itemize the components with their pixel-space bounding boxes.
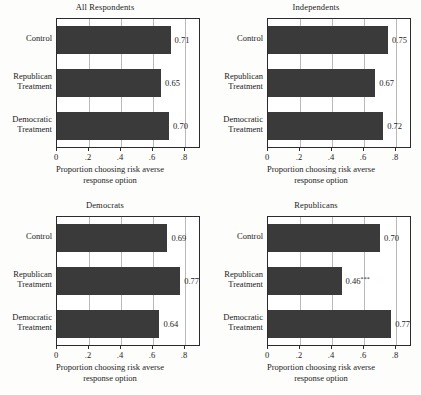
bar [268, 310, 391, 338]
panel-title: Democrats [0, 200, 210, 210]
axis-tick [120, 148, 121, 151]
category-label-line2: Treatment [211, 323, 263, 333]
axis-tick [88, 346, 89, 349]
chart-panel: All RespondentsControlRepublicanTreatmen… [0, 0, 210, 197]
x-axis-title-line2: response option [231, 373, 411, 384]
axis-tick-label: .4 [117, 350, 123, 360]
bar-row: 0.70 [57, 112, 201, 140]
x-axis: 0.2.4.6.8 [56, 148, 200, 152]
bar-value-label: 0.65 [161, 78, 180, 88]
category-label-line2: Treatment [0, 125, 52, 135]
x-axis-title-line1: Proportion choosing risk averse [20, 362, 200, 373]
bar-row: 0.70 [268, 224, 412, 252]
category-axis-labels: ControlRepublicanTreatmentDemocraticTrea… [0, 216, 52, 346]
axis-tick-label: .6 [149, 350, 155, 360]
plot-area: 0.700.46***0.77 [267, 216, 411, 346]
axis-tick-label: .2 [85, 152, 91, 162]
axis-tick-label: .4 [328, 350, 334, 360]
axis-tick-label: .8 [181, 152, 187, 162]
bar-value-label: 0.69 [167, 233, 186, 243]
bar-row: 0.46*** [268, 267, 412, 295]
bar-value-number: 0.71 [175, 35, 190, 45]
bar [268, 69, 375, 97]
axis-tick [299, 148, 300, 151]
category-label: DemocraticTreatment [211, 115, 263, 134]
bar-row: 0.67 [268, 69, 412, 97]
bar-value-number: 0.46 [346, 276, 361, 286]
bar [57, 26, 171, 54]
axis-tick-label: 0 [54, 350, 58, 360]
bar [268, 26, 388, 54]
bar-row: 0.72 [268, 112, 412, 140]
bar-value-label: 0.70 [169, 121, 188, 131]
axis-tick-label: .6 [149, 152, 155, 162]
x-axis-title-line1: Proportion choosing risk averse [20, 164, 200, 175]
x-axis-title-line1: Proportion choosing risk averse [231, 164, 411, 175]
axis-tick-label: .8 [392, 350, 398, 360]
axis-tick [395, 346, 396, 349]
chart-panel: IndependentsControlRepublicanTreatmentDe… [211, 0, 421, 197]
bar-value-label: 0.77 [180, 276, 199, 286]
bar [57, 267, 180, 295]
axis-tick-label: .2 [85, 350, 91, 360]
bar-value-number: 0.75 [392, 35, 407, 45]
category-label-line1: Control [0, 232, 52, 242]
category-label: RepublicanTreatment [211, 72, 263, 91]
bar [57, 310, 159, 338]
panel-title: Republicans [211, 200, 421, 210]
bar-value-number: 0.77 [395, 319, 410, 329]
category-label: DemocraticTreatment [211, 313, 263, 332]
panel-title: All Respondents [0, 2, 210, 12]
bar-row: 0.69 [57, 224, 201, 252]
category-label-line1: Control [0, 34, 52, 44]
x-axis: 0.2.4.6.8 [56, 346, 200, 350]
bar-value-number: 0.69 [171, 233, 186, 243]
axis-tick [331, 346, 332, 349]
plot-area: 0.750.670.72 [267, 18, 411, 148]
bar [268, 112, 383, 140]
category-label-line2: Treatment [211, 125, 263, 135]
bar-value-number: 0.70 [384, 233, 399, 243]
axis-tick-label: 0 [54, 152, 58, 162]
bar-value-label: 0.46*** [342, 276, 370, 287]
x-axis-title: Proportion choosing risk averseresponse … [20, 362, 200, 384]
axis-tick [267, 346, 268, 349]
bar-row: 0.77 [268, 310, 412, 338]
axis-tick [363, 346, 364, 349]
axis-tick-label: .8 [392, 152, 398, 162]
category-label: RepublicanTreatment [211, 270, 263, 289]
bar [268, 267, 342, 295]
axis-tick [184, 148, 185, 151]
x-axis-title: Proportion choosing risk averseresponse … [231, 362, 411, 384]
category-label: DemocraticTreatment [0, 115, 52, 134]
x-axis-title: Proportion choosing risk averseresponse … [231, 164, 411, 186]
x-axis-title-line2: response option [231, 175, 411, 186]
category-label: RepublicanTreatment [0, 270, 52, 289]
axis-tick-label: .6 [360, 350, 366, 360]
bar-row: 0.64 [57, 310, 201, 338]
bar-value-label: 0.67 [375, 78, 394, 88]
figure-panel-grid: All RespondentsControlRepublicanTreatmen… [0, 0, 421, 395]
category-label-line2: Treatment [0, 323, 52, 333]
axis-tick [395, 148, 396, 151]
axis-tick [152, 346, 153, 349]
bar-value-label: 0.64 [159, 319, 178, 329]
plot-area: 0.690.770.64 [56, 216, 200, 346]
x-axis: 0.2.4.6.8 [267, 346, 411, 350]
category-label: RepublicanTreatment [0, 72, 52, 91]
bar-row: 0.77 [57, 267, 201, 295]
category-label-line2: Treatment [0, 82, 52, 92]
category-axis-labels: ControlRepublicanTreatmentDemocraticTrea… [0, 18, 52, 148]
bar-row: 0.71 [57, 26, 201, 54]
bar-value-label: 0.77 [391, 319, 410, 329]
bar-value-number: 0.77 [184, 276, 199, 286]
bar [57, 224, 167, 252]
category-label-line1: Control [211, 34, 263, 44]
bar-value-label: 0.71 [171, 35, 190, 45]
axis-tick [363, 148, 364, 151]
axis-tick-label: .8 [181, 350, 187, 360]
axis-tick-label: .2 [296, 152, 302, 162]
category-label: DemocraticTreatment [0, 313, 52, 332]
category-label: Control [0, 34, 52, 44]
bar-value-label: 0.72 [383, 121, 402, 131]
